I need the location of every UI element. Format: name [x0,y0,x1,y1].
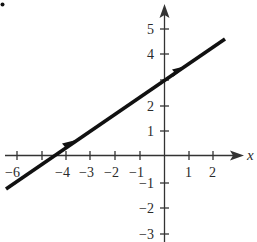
x-tick-label: −2 [104,165,119,180]
y-tick-labels: 5 4 2 1 −1 −2 −3 [139,22,154,242]
x-tick-label: 2 [209,165,216,180]
y-tick-label: 2 [147,99,154,114]
line-direction-arrow-icon [62,140,76,151]
x-tick-label: 1 [185,165,192,180]
x-tick-label: −3 [79,165,94,180]
y-tick-label: 1 [147,124,154,139]
y-axis [160,10,169,242]
x-tick-label: −6 [5,165,20,180]
x-axis [5,151,236,160]
y-tick-label: 4 [147,47,154,62]
line-graph: x −6 −4 −3 −2 −1 1 2 5 4 2 1 −1 −2 −3 [0,0,257,242]
line-direction-arrow-icon [172,66,186,77]
x-tick-label: −4 [55,165,70,180]
y-tick-label: −3 [139,227,154,242]
x-axis-label: x [246,147,254,163]
y-tick-label: −2 [139,201,154,216]
marker-dot [1,3,5,7]
y-tick-label: −1 [139,176,154,191]
y-tick-label: 5 [147,22,154,37]
